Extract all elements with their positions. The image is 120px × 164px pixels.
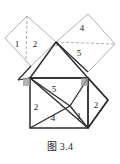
region-label-2-right-outer: 2 [94,100,99,110]
region-label-5-upper-right: 5 [77,48,82,58]
leg-line-apex-down [56,42,88,72]
region-label-4-main-bottom: 4 [51,113,56,123]
region-label-2-left: 2 [33,39,38,49]
right-angle-marker-right [81,78,88,86]
region-label-2-main-left: 2 [34,102,39,112]
left-square-dashed-diagonal [26,16,27,62]
figure-container: 1 2 3 4 5 5 2 4 1 2 图 3.4 [0,0,120,164]
leg-line-apex-to-right [56,42,88,78]
dissection-lines-group [18,42,108,128]
region-label-1-main-right: 1 [77,111,82,121]
region-label-1-left: 1 [15,39,20,49]
upper-right-square-group [56,14,115,72]
upper-right-square [56,14,115,72]
upper-right-square-dashed-diagonal [56,42,115,44]
right-angle-marker-left [23,78,30,86]
region-labels-group: 1 2 3 4 5 5 2 4 1 2 [15,23,99,123]
region-label-5-main: 5 [52,84,57,94]
figure-caption: 图 3.4 [0,138,120,153]
region-label-4-upper-right: 4 [80,23,85,33]
left-square [5,16,56,66]
cut-line-right-flap-upper [88,78,108,100]
region-label-3-apex: 3 [54,40,58,48]
left-square-group [5,16,56,66]
